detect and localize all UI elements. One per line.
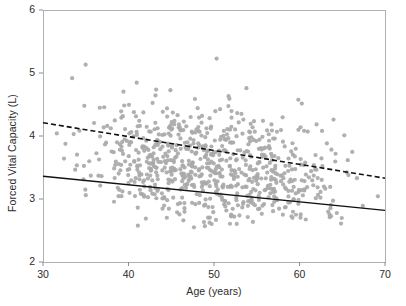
y-tick-label-3: 3 (13, 192, 35, 204)
y-tick-label-6: 6 (13, 3, 35, 15)
data-points (55, 57, 380, 230)
y-tick-label-4: 4 (13, 129, 35, 141)
x-axis-title-wrap: Age (years) (43, 284, 385, 298)
plot-frame (44, 11, 386, 263)
x-tick-label-70: 70 (370, 268, 400, 280)
y-tick-label-2: 2 (13, 255, 35, 267)
scatter-plot-canvas (0, 0, 406, 306)
x-tick-label-50: 50 (199, 268, 229, 280)
axis-ticks (39, 10, 385, 266)
x-tick-label-60: 60 (285, 268, 315, 280)
x-tick-label-30: 30 (28, 268, 58, 280)
x-axis-title: Age (years) (186, 285, 241, 297)
y-tick-label-5: 5 (13, 66, 35, 78)
chart-figure: Forced Vital Capacity (L) Age (years) 30… (0, 0, 406, 306)
x-tick-label-40: 40 (114, 268, 144, 280)
